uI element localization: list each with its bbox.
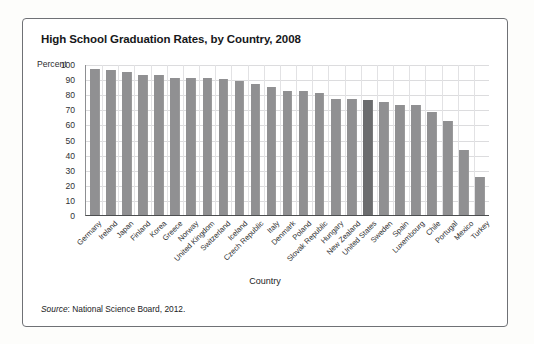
bar-slot <box>119 65 135 215</box>
bar-slot <box>199 65 215 215</box>
y-axis-tick-label: 100 <box>61 60 75 70</box>
y-axis-tick-label: 0 <box>70 211 75 221</box>
bar-slot <box>280 65 296 215</box>
y-axis-tick-label: 80 <box>65 90 75 100</box>
bar-slot <box>472 65 488 215</box>
source-text: National Science Board, 2012. <box>72 304 185 314</box>
bar <box>186 78 196 215</box>
plot-area <box>85 65 489 216</box>
bar-slot <box>167 65 183 215</box>
bar <box>251 84 261 215</box>
y-axis-tick-label: 40 <box>65 151 75 161</box>
bar-slot <box>264 65 280 215</box>
bar <box>106 70 116 215</box>
bar <box>267 87 277 215</box>
bar-slot <box>135 65 151 215</box>
bar <box>283 91 293 215</box>
y-axis-tick-label: 20 <box>65 181 75 191</box>
bar <box>90 69 100 215</box>
bar-slot <box>231 65 247 215</box>
bar <box>315 93 325 215</box>
bar <box>154 75 164 215</box>
bar <box>299 91 309 215</box>
y-axis-tick-label: 10 <box>65 196 75 206</box>
y-axis-tick-label: 30 <box>65 166 75 176</box>
bar <box>475 177 485 215</box>
bar <box>395 105 405 215</box>
source-label: Source <box>41 304 68 314</box>
bar-slot <box>151 65 167 215</box>
bar <box>459 150 469 215</box>
bar-slot <box>392 65 408 215</box>
chart-title: High School Graduation Rates, by Country… <box>41 33 301 45</box>
bar <box>411 105 421 215</box>
bar-slot <box>247 65 263 215</box>
bar <box>138 75 148 215</box>
figure-frame: High School Graduation Rates, by Country… <box>22 18 508 327</box>
y-axis-tick-label: 90 <box>65 75 75 85</box>
bar-slot <box>87 65 103 215</box>
bar-slot <box>328 65 344 215</box>
bar <box>219 79 229 215</box>
bar-slot <box>376 65 392 215</box>
x-axis-title: Country <box>23 276 507 286</box>
bar-slot <box>424 65 440 215</box>
bar-slot <box>103 65 119 215</box>
bar <box>443 121 453 215</box>
source-note: Source: National Science Board, 2012. <box>41 304 185 314</box>
bar <box>170 78 180 215</box>
bar <box>235 81 245 215</box>
bar <box>203 78 213 215</box>
bar-slot <box>215 65 231 215</box>
bar-slot <box>296 65 312 215</box>
bar-slot <box>360 65 376 215</box>
y-axis-tick-label: 60 <box>65 120 75 130</box>
bar-slot <box>183 65 199 215</box>
y-axis-tick-label: 50 <box>65 136 75 146</box>
bar <box>427 112 437 215</box>
bar <box>331 99 341 215</box>
y-axis-tick-label: 70 <box>65 105 75 115</box>
bar-slot <box>312 65 328 215</box>
bar-slot <box>440 65 456 215</box>
bar-slot <box>408 65 424 215</box>
bar <box>122 72 132 215</box>
bar-slot <box>344 65 360 215</box>
bar-highlighted <box>363 100 373 215</box>
bar-slot <box>456 65 472 215</box>
bar <box>347 99 357 215</box>
bar-series <box>86 65 489 215</box>
y-axis-tick-labels: 1009080706050403020100 <box>23 65 81 216</box>
bar <box>379 102 389 215</box>
